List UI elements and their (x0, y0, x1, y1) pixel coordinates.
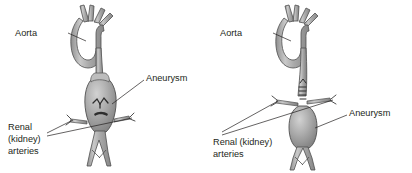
aorta-label-right: Aorta (220, 28, 243, 38)
renal-label-left-line3: arteries (8, 146, 39, 156)
right-panel-illustration: Aorta Aneurysm Renal (kidney) arteries (213, 5, 391, 170)
left-panel-illustration: Aorta Aneurysm Renal (kidney) arteries (8, 5, 188, 166)
aneurysm-leader-right (315, 115, 347, 128)
renal-label-left-line1: Renal (8, 122, 32, 132)
arch-branches-right (285, 5, 318, 26)
iliac-bifurcation-left (87, 131, 111, 166)
renal-label-right-line1: Renal (kidney) (213, 137, 272, 147)
iliac-bifurcation-right (290, 147, 315, 170)
renal-leader-right-a (222, 101, 278, 132)
aneurysm-label-right: Aneurysm (349, 108, 391, 118)
renal-label-left-line2: (kidney) (8, 134, 41, 144)
arch-branches-left (80, 5, 113, 26)
renal-label-right-line2: arteries (213, 149, 244, 159)
aneurysm-leader-left (112, 80, 144, 104)
aortic-aneurysm-figure: Aorta Aneurysm Renal (kidney) arteries (0, 0, 412, 173)
aorta-label-left: Aorta (15, 28, 38, 38)
aneurysm-label-left: Aneurysm (146, 73, 188, 83)
